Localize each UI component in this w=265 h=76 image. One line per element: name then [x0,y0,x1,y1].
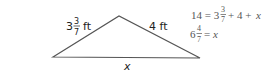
svg-text:7: 7 [74,28,79,37]
svg-text:x: x [212,28,218,40]
equation-1: 14 = 3 3 7 + 4 + x [191,5,261,24]
equation-2: 6 4 7 = x [190,24,218,44]
svg-text:ft: ft [83,20,92,33]
svg-text:3: 3 [74,17,79,26]
svg-text:3: 3 [221,5,225,14]
svg-text:x: x [255,9,261,21]
svg-text:3: 3 [66,20,73,33]
svg-text:+ 4 +: + 4 + [228,9,251,21]
left-side-label: 3 3 7 ft [66,17,92,37]
right-side-label: 4 ft [149,20,168,33]
svg-text:6: 6 [190,28,196,40]
svg-text:7: 7 [197,35,201,44]
svg-text:4: 4 [197,24,201,33]
svg-text:14 = 3: 14 = 3 [191,9,220,21]
svg-text:7: 7 [221,15,225,24]
triangle-diagram: 3 3 7 ft 4 ft x 14 = 3 3 7 + 4 + x 6 4 7… [0,0,265,76]
svg-text:=: = [204,28,210,40]
base-label: x [123,60,131,73]
